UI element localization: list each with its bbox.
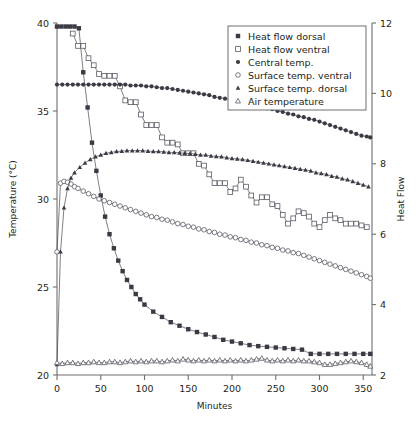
data-point-filled-square [326,352,330,356]
data-point-filled-square [204,332,208,336]
data-point-filled-circle [312,118,316,122]
data-point-filled-circle [365,134,369,138]
chart-canvas: Heat flow dorsalHeat flow ventralCentral… [0,0,419,433]
data-point-open-circle [170,220,175,225]
legend-layer: Heat flow dorsalHeat flow ventralCentral… [228,26,366,110]
legend-item-1[interactable]: Heat flow ventral [236,44,330,55]
data-point-open-square [343,221,348,226]
data-point-open-square [270,202,275,207]
data-point-open-circle [191,225,196,230]
data-point-filled-circle [65,83,69,87]
data-point-filled-square [291,347,295,351]
data-point-open-triangle [259,356,264,361]
data-point-filled-circle [197,91,201,95]
data-point-open-circle [112,202,117,207]
y-tick-label-right: 8 [380,158,386,169]
legend-item-2[interactable]: Central temp. [236,57,314,68]
data-point-open-circle [333,264,338,269]
data-point-filled-circle [223,97,227,101]
data-point-open-circle [81,189,86,194]
y-tick-label-left: 20 [37,370,49,381]
data-point-filled-circle [307,117,311,121]
data-point-open-circle [144,213,149,218]
legend-item-label: Heat flow ventral [248,44,330,55]
data-point-open-circle [91,194,96,199]
data-point-filled-square [107,232,111,236]
data-point-open-triangle [238,357,243,362]
data-point-open-square [280,212,285,217]
data-point-open-circle [217,232,222,237]
data-point-open-circle [133,209,138,214]
data-point-open-square [102,73,107,78]
data-point-open-circle [280,248,285,253]
data-point-open-square [236,47,241,52]
data-point-open-circle [102,198,107,203]
data-point-open-circle [196,227,201,232]
data-point-open-circle [317,258,322,263]
data-point-open-square [291,216,296,221]
data-point-filled-circle [218,96,222,100]
data-point-open-triangle [296,357,301,362]
data-point-open-square [154,123,159,128]
data-point-filled-circle [191,90,195,94]
data-point-open-circle [301,253,306,258]
x-tick-label: 300 [310,383,328,394]
data-point-filled-square [112,246,116,250]
data-point-filled-square [85,105,89,109]
legend-item-5[interactable]: Air temperature [236,96,324,107]
data-point-open-square [133,100,138,105]
data-point-open-square [128,100,133,105]
legend-item-0[interactable]: Heat flow dorsal [236,31,326,42]
data-point-open-square [265,195,270,200]
x-tick-label: 150 [179,383,197,394]
data-point-open-circle [275,246,280,251]
legend-item-3[interactable]: Surface temp. ventral [236,70,352,81]
y-axis-title-left: Temperature (°C) [8,160,18,239]
data-point-open-square [296,209,301,214]
data-point-open-square [97,72,102,77]
data-point-filled-circle [144,84,148,88]
data-point-filled-circle [359,134,363,138]
data-point-filled-square [138,297,142,301]
data-point-filled-square [344,352,348,356]
data-point-open-circle [181,222,186,227]
data-point-open-circle [291,250,296,255]
data-point-filled-square [335,352,339,356]
legend-item-4[interactable]: Surface temp. dorsal [236,83,348,94]
data-point-open-circle [118,204,123,209]
data-point-open-circle [186,224,191,229]
data-point-filled-circle [291,112,295,116]
data-point-filled-circle [149,84,153,88]
data-point-open-circle [354,271,359,276]
data-point-open-circle [296,251,301,256]
data-point-filled-circle [160,86,164,90]
data-point-open-circle [97,197,102,202]
data-point-filled-square [103,214,107,218]
series-5 [55,356,373,369]
data-point-open-square [76,43,81,48]
data-point-open-circle [139,211,144,216]
data-point-filled-square [317,352,321,356]
data-point-open-square [175,142,180,147]
data-point-filled-circle [186,90,190,94]
x-tick-label: 250 [267,383,285,394]
legend-item-label: Central temp. [248,57,313,68]
data-point-filled-square [177,324,181,328]
data-point-filled-square [300,347,304,351]
data-point-filled-circle [55,83,59,87]
data-point-filled-circle [123,83,127,87]
data-point-filled-circle [328,123,332,127]
data-point-open-triangle [196,357,201,362]
y-tick-label-right: 4 [380,299,386,310]
data-point-open-square [233,186,238,191]
data-point-open-circle [149,214,154,219]
data-point-open-triangle [228,357,233,362]
data-point-open-square [354,221,359,226]
data-point-filled-circle [134,83,138,87]
y-tick-label-left: 30 [37,194,49,205]
data-point-open-circle [286,249,291,254]
data-point-open-square [165,140,170,145]
data-point-open-square [338,218,343,223]
data-point-open-triangle [55,360,60,365]
data-point-filled-square [221,338,225,342]
